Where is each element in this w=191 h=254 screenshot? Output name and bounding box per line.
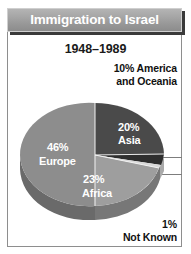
callout-america-oceania: 10% America and Oceania [114, 62, 177, 87]
figure-title: Immigration to Israel [30, 13, 159, 27]
figure-period: 1948–1989 [0, 42, 191, 56]
pie-label-asia-pct: 20% [118, 121, 140, 133]
callout-notknown-line2: Not Known [123, 231, 177, 244]
callout-america-line2: and Oceania [114, 75, 177, 88]
pie-label-asia-name: Asia [118, 134, 142, 146]
pie-chart: 20% Asia 46% Europe 23% Africa [14, 96, 176, 220]
pie-label-africa-name: Africa [82, 187, 113, 199]
figure-immigration-to-israel: Immigration to Israel 1948–1989 10% Amer… [0, 0, 191, 254]
pie-label-africa-pct: 23% [83, 173, 105, 185]
title-banner: Immigration to Israel [7, 8, 182, 32]
callout-america-line1: 10% America [114, 62, 177, 75]
pie-label-europe-pct: 46% [47, 141, 69, 153]
callout-not-known: 1% Not Known [123, 218, 177, 243]
pie-label-europe-name: Europe [39, 155, 76, 167]
